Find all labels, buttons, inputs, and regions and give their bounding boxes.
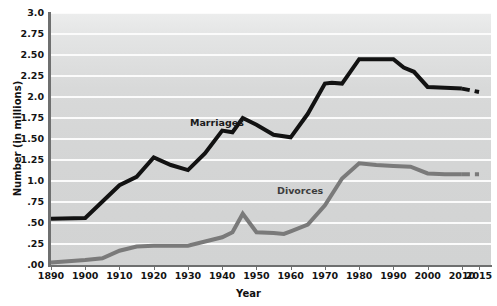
y-axis-title: Number (in millions) — [12, 59, 23, 219]
series-projection-marriages — [462, 89, 479, 92]
x-axis-line — [48, 265, 492, 267]
series-label-marriages: Marriages — [190, 117, 244, 128]
x-tick-label: 2015 — [459, 270, 497, 281]
chart-figure: .00.25.50.751.01.251.501.752.02.252.502.… — [0, 0, 497, 306]
y-tick-label: .25 — [8, 239, 44, 249]
plot-area — [51, 13, 491, 265]
y-tick-label: .50 — [8, 218, 44, 228]
y-axis-line — [48, 12, 51, 267]
series-layer — [51, 13, 491, 265]
series-line-marriages — [51, 59, 462, 219]
y-tick-label: .00 — [8, 260, 44, 270]
series-label-divorces: Divorces — [277, 185, 323, 196]
y-tick-label: 2.75 — [8, 29, 44, 39]
y-tick-label: 3.0 — [8, 8, 44, 18]
series-line-divorces — [51, 163, 462, 262]
x-axis-title: Year — [0, 288, 497, 299]
